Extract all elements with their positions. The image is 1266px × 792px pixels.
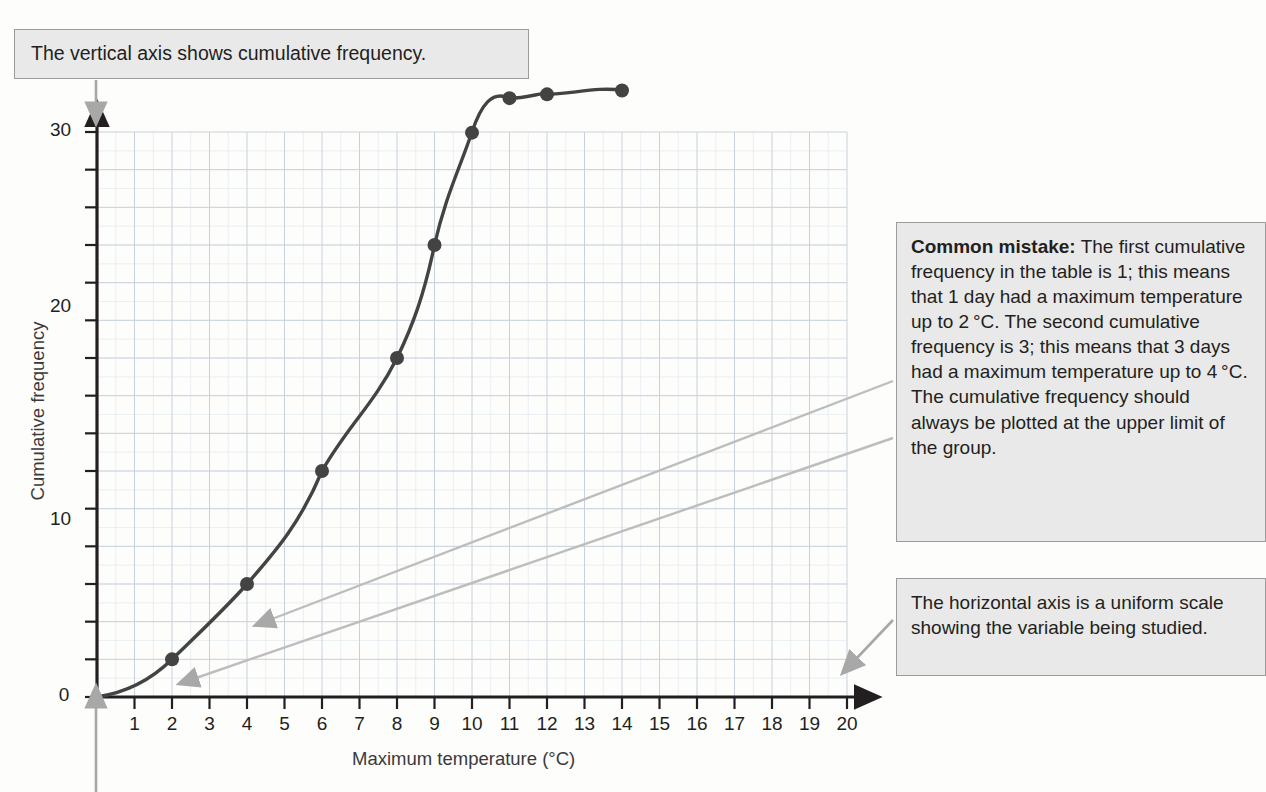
callout-common-mistake-label: Common mistake:: [911, 236, 1076, 257]
leader-to-point-4-3: [272, 381, 893, 619]
x-tick-label-3: 3: [190, 713, 230, 735]
x-tick-label-12: 12: [527, 713, 567, 735]
x-tick-label-14: 14: [602, 713, 642, 735]
y-axis-ticks: [85, 132, 97, 697]
x-tick-label-16: 16: [677, 713, 717, 735]
x-tick-label-10: 10: [452, 713, 492, 735]
data-point: [315, 464, 329, 478]
data-point: [465, 126, 479, 140]
y-tick-label-10: 10: [40, 508, 81, 530]
callout-vertical-axis: The vertical axis shows cumulative frequ…: [14, 29, 529, 79]
data-point: [503, 91, 517, 105]
y-tick-label-0: 0: [47, 684, 81, 706]
x-tick-label-19: 19: [790, 713, 830, 735]
x-tick-label-1: 1: [115, 713, 155, 735]
callout-common-mistake-text: The first cumulative frequency in the ta…: [911, 236, 1248, 458]
data-point: [428, 238, 442, 252]
callout-common-mistake: Common mistake: The first cumulative fre…: [896, 222, 1266, 542]
x-tick-label-20: 20: [827, 713, 867, 735]
x-tick-label-17: 17: [715, 713, 755, 735]
y-tick-label-20: 20: [40, 295, 81, 317]
x-tick-label-13: 13: [565, 713, 605, 735]
x-tick-label-9: 9: [415, 713, 455, 735]
callout-horizontal-axis: The horizontal axis is a uniform scale s…: [896, 578, 1266, 676]
x-tick-label-8: 8: [377, 713, 417, 735]
callout-vertical-axis-text: The vertical axis shows cumulative frequ…: [31, 41, 426, 67]
x-tick-label-6: 6: [302, 713, 342, 735]
y-tick-label-30: 30: [40, 119, 81, 141]
data-point: [390, 351, 404, 365]
data-point: [165, 652, 179, 666]
x-tick-label-7: 7: [340, 713, 380, 735]
callout-horizontal-axis-text: The horizontal axis is a uniform scale s…: [911, 592, 1224, 638]
y-axis-title: Cumulative frequency: [27, 311, 49, 511]
x-tick-label-18: 18: [752, 713, 792, 735]
annotation-leader-lines: [196, 381, 893, 678]
major-gridlines: [97, 132, 847, 697]
leader-to-point-2-1: [196, 438, 893, 678]
x-tick-label-15: 15: [640, 713, 680, 735]
annotation-arrows: [96, 80, 893, 792]
x-tick-label-11: 11: [490, 713, 530, 735]
data-point: [240, 577, 254, 591]
x-tick-label-4: 4: [227, 713, 267, 735]
data-point: [615, 84, 629, 98]
data-point: [540, 87, 554, 101]
arrow-right-to-x-axis: [856, 620, 893, 659]
x-tick-label-5: 5: [265, 713, 305, 735]
x-axis-title: Maximum temperature (°C): [352, 748, 575, 770]
x-tick-label-2: 2: [152, 713, 192, 735]
axis-lines: [97, 124, 857, 697]
x-axis-ticks: [135, 697, 848, 709]
